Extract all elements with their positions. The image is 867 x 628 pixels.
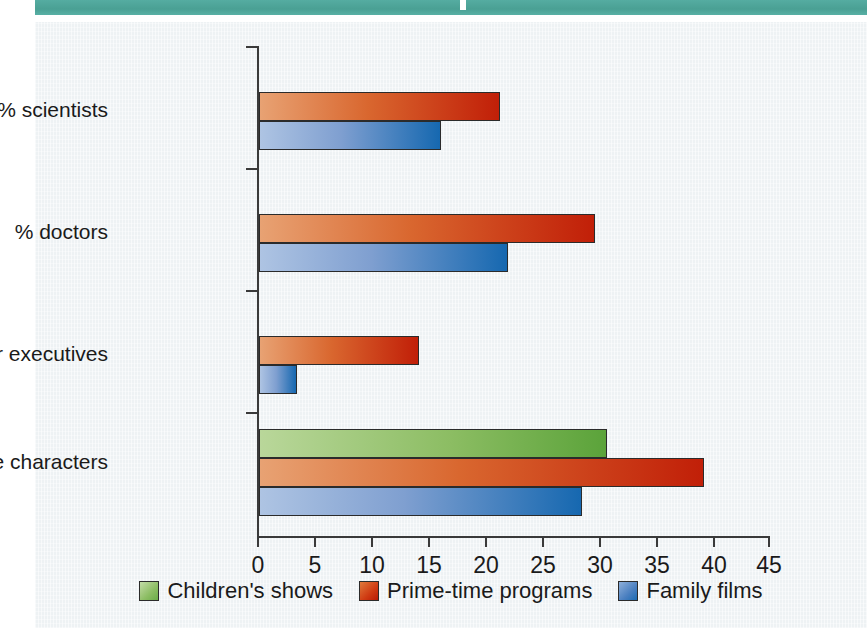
x-tick-45 bbox=[768, 536, 770, 547]
x-tick-35 bbox=[656, 536, 658, 547]
chart-panel: 0 5 10 15 20 25 30 35 40 45 % scientists… bbox=[35, 22, 867, 628]
x-tick-0 bbox=[257, 536, 259, 547]
bar-female-characters-family-films bbox=[259, 487, 582, 516]
bar-scientists-prime-time bbox=[259, 92, 500, 121]
bar-scientists-family-films bbox=[259, 121, 441, 150]
x-tick-15 bbox=[428, 536, 430, 547]
y-axis-separator-tick bbox=[246, 412, 257, 414]
bar-female-characters-prime-time bbox=[259, 458, 704, 487]
header-band bbox=[35, 0, 867, 15]
x-axis-label-35: 35 bbox=[644, 552, 670, 579]
legend-item-childrens-shows[interactable]: Children's shows bbox=[139, 578, 333, 604]
legend-swatch-icon-prime-time-programs bbox=[359, 581, 379, 601]
y-axis-separator-tick bbox=[246, 290, 257, 292]
bar-doctors-prime-time bbox=[259, 214, 595, 243]
x-tick-40 bbox=[713, 536, 715, 547]
x-tick-5 bbox=[314, 536, 316, 547]
x-axis-line bbox=[257, 536, 770, 538]
legend-label-prime-time-programs: Prime-time programs bbox=[387, 578, 592, 604]
plot-area: 0 5 10 15 20 25 30 35 40 45 bbox=[257, 46, 770, 536]
y-axis-separator-tick bbox=[246, 168, 257, 170]
x-axis-label-30: 30 bbox=[587, 552, 613, 579]
header-notch-marker bbox=[460, 0, 466, 10]
bar-female-characters-childrens-shows bbox=[259, 429, 607, 458]
x-tick-30 bbox=[599, 536, 601, 547]
x-axis-label-20: 20 bbox=[473, 552, 499, 579]
bar-senior-executives-prime-time bbox=[259, 336, 419, 365]
x-axis-label-0: 0 bbox=[252, 552, 265, 579]
x-axis-label-10: 10 bbox=[359, 552, 385, 579]
x-tick-20 bbox=[485, 536, 487, 547]
x-axis-label-5: 5 bbox=[309, 552, 322, 579]
legend-swatch-icon-family-films bbox=[618, 581, 638, 601]
category-label-female-characters: % female characters bbox=[0, 450, 108, 474]
category-label-senior-executives: % senior executives bbox=[0, 342, 108, 366]
legend-label-childrens-shows: Children's shows bbox=[167, 578, 333, 604]
legend-item-prime-time-programs[interactable]: Prime-time programs bbox=[359, 578, 592, 604]
x-axis-label-15: 15 bbox=[416, 552, 442, 579]
x-axis-label-45: 45 bbox=[756, 552, 782, 579]
x-axis-label-25: 25 bbox=[530, 552, 556, 579]
bar-senior-executives-family-films bbox=[259, 365, 297, 394]
y-axis-top-tick bbox=[246, 46, 257, 48]
x-tick-25 bbox=[542, 536, 544, 547]
chart-page: 0 5 10 15 20 25 30 35 40 45 % scientists… bbox=[0, 0, 867, 628]
category-label-doctors: % doctors bbox=[15, 220, 108, 244]
bar-doctors-family-films bbox=[259, 243, 508, 272]
chart-legend: Children's shows Prime-time programs Fam… bbox=[35, 578, 867, 604]
x-axis-label-40: 40 bbox=[701, 552, 727, 579]
category-label-scientists: % scientists bbox=[0, 98, 108, 122]
x-tick-10 bbox=[371, 536, 373, 547]
legend-swatch-icon-childrens-shows bbox=[139, 581, 159, 601]
legend-item-family-films[interactable]: Family films bbox=[618, 578, 762, 604]
legend-label-family-films: Family films bbox=[646, 578, 762, 604]
